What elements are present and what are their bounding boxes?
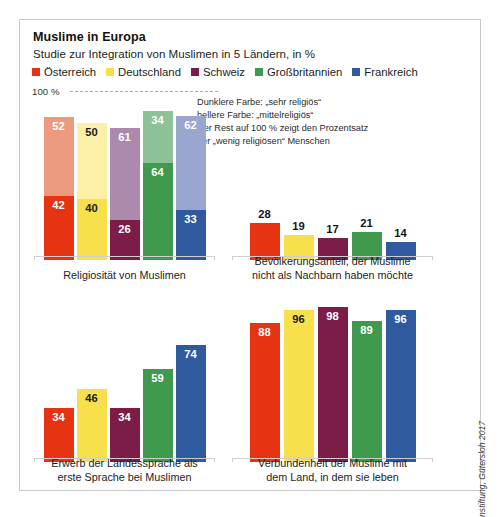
- bar-segment-mittelreligioes: 62: [176, 116, 206, 210]
- bar-segment-sehr-religioes: 40: [77, 199, 107, 260]
- legend-item: Großbritannien: [255, 66, 342, 78]
- bar-value-label: 33: [176, 213, 206, 225]
- bar-verbundenheit-3[interactable]: 89: [352, 321, 382, 462]
- chart-caption: Religiosität von Muslimen: [32, 269, 217, 282]
- chart-caption: Bevölkerungsanteil, der Muslimenicht als…: [230, 255, 435, 282]
- bar-value-label: 50: [77, 126, 107, 138]
- legend-item: Österreich: [32, 66, 96, 78]
- chart-caption-line: erste Sprache bei Muslimen: [32, 471, 217, 484]
- legend-label: Frankreich: [364, 66, 417, 78]
- plot-area: 8896988996: [230, 304, 435, 462]
- bar-segment-sehr-religioes: 26: [110, 220, 140, 260]
- bar-value-label: 62: [176, 119, 206, 131]
- legend: ÖsterreichDeutschlandSchweizGroßbritanni…: [32, 66, 418, 78]
- chart-verbundenheit: 8896988996Verbundenheit der Muslime mitd…: [230, 288, 435, 484]
- bar-value-label: 34: [110, 411, 140, 423]
- bar-religiositaet-0[interactable]: 5242: [44, 117, 74, 260]
- bar-landessprache-3[interactable]: 59: [143, 369, 173, 462]
- bar-value-label: 59: [143, 372, 173, 384]
- page-title: Muslime in Europa: [33, 30, 146, 44]
- chart-caption-line: Bevölkerungsanteil, der Muslime: [230, 255, 435, 268]
- bar-segment-sehr-religioes: 33: [176, 210, 206, 260]
- chart-caption: Erwerb der Landessprache alserste Sprach…: [32, 457, 217, 484]
- bar-value-label: 28: [250, 208, 280, 220]
- legend-item: Frankreich: [352, 66, 417, 78]
- legend-item: Schweiz: [191, 66, 245, 78]
- bar-group: 3446345974: [32, 304, 217, 462]
- bar-landessprache-0[interactable]: 34: [44, 408, 74, 462]
- bar-value-label: 96: [386, 313, 416, 325]
- legend-label: Deutschland: [118, 66, 181, 78]
- bar-landessprache-4[interactable]: 74: [176, 345, 206, 462]
- chart-caption-line: Erwerb der Landessprache als: [32, 457, 217, 470]
- bar-segment-mittelreligioes: 34: [143, 111, 173, 163]
- bar-landessprache-2[interactable]: 34: [110, 408, 140, 462]
- bar-verbundenheit-1[interactable]: 96: [284, 310, 314, 462]
- legend-swatch-icon: [191, 68, 199, 76]
- legend-label: Großbritannien: [267, 66, 342, 78]
- bar-value-label: 26: [110, 223, 140, 235]
- bar-value-label: 52: [44, 120, 74, 132]
- chart-caption-line: Verbundenheit der Muslime mit: [230, 457, 435, 470]
- legend-swatch-icon: [32, 68, 40, 76]
- bar-verbundenheit-0[interactable]: 88: [250, 323, 280, 462]
- legend-label: Schweiz: [203, 66, 245, 78]
- bar-value-label: 19: [284, 220, 314, 232]
- bar-segment-sehr-religioes: 64: [143, 163, 173, 260]
- legend-label: Österreich: [44, 66, 96, 78]
- bar-value-label: 89: [352, 324, 382, 336]
- bar-segment-sehr-religioes: 42: [44, 196, 74, 260]
- bar-value-label: 14: [386, 227, 416, 239]
- chart-caption: Verbundenheit der Muslime mitdem Land, i…: [230, 457, 435, 484]
- chart-landessprache: 3446345974Erwerb der Landessprache alser…: [32, 288, 217, 484]
- bar-verbundenheit-4[interactable]: 96: [386, 310, 416, 462]
- bar-value-label: 34: [44, 411, 74, 423]
- chart-caption-line: Religiosität von Muslimen: [32, 269, 217, 282]
- bar-value-label: 74: [176, 348, 206, 360]
- chart-caption-line: nicht als Nachbarn haben möchte: [230, 269, 435, 282]
- axis-baseline: [34, 256, 215, 260]
- bar-segment-mittelreligioes: 50: [77, 123, 107, 199]
- bar-value-label: 98: [318, 310, 348, 322]
- bar-value-label: 96: [284, 313, 314, 325]
- plot-area: 52425040612634646233: [32, 108, 217, 260]
- bar-value-label: 88: [250, 326, 280, 338]
- bar-value-label: 42: [44, 199, 74, 211]
- legend-swatch-icon: [352, 68, 360, 76]
- bar-segment-mittelreligioes: 61: [110, 128, 140, 221]
- bar-group: 52425040612634646233: [32, 108, 217, 260]
- bar-segment-mittelreligioes: 52: [44, 117, 74, 196]
- bar-value-label: 46: [77, 392, 107, 404]
- page-subtitle: Studie zur Integration von Muslimen in 5…: [33, 48, 315, 60]
- bar-value-label: 64: [143, 166, 173, 178]
- infographic-panel: Muslime in Europa Studie zur Integration…: [19, 19, 481, 491]
- chart-caption-line: dem Land, in dem sie leben: [230, 471, 435, 484]
- chart-religiositaet: 52425040612634646233Religiosität von Mus…: [32, 92, 217, 282]
- bar-value-label: 34: [143, 114, 173, 126]
- bar-value-label: 17: [318, 223, 348, 235]
- bar-value-label: 40: [77, 202, 107, 214]
- legend-swatch-icon: [106, 68, 114, 76]
- bar-value-label: 21: [352, 217, 382, 229]
- bar-landessprache-1[interactable]: 46: [77, 389, 107, 462]
- bar-religiositaet-3[interactable]: 3464: [143, 111, 173, 260]
- chart-nachbarn: 2819172114Bevölkerungsanteil, der Muslim…: [230, 112, 435, 282]
- legend-swatch-icon: [255, 68, 263, 76]
- bar-group: 8896988996: [230, 304, 435, 462]
- bar-religiositaet-4[interactable]: 6233: [176, 116, 206, 260]
- legend-item: Deutschland: [106, 66, 181, 78]
- bar-verbundenheit-2[interactable]: 98: [318, 307, 348, 462]
- bar-group: 2819172114: [230, 128, 435, 260]
- plot-area: 2819172114: [230, 128, 435, 260]
- source-note: Quelle: Halm, D., Sauer M.: Muslime in E…: [477, 421, 487, 517]
- plot-area: 3446345974: [32, 304, 217, 462]
- bar-religiositaet-2[interactable]: 6126: [110, 128, 140, 260]
- annotation-line: Dunklere Farbe: „sehr religiös“: [197, 96, 437, 109]
- bar-religiositaet-1[interactable]: 5040: [77, 123, 107, 260]
- bar-value-label: 61: [110, 131, 140, 143]
